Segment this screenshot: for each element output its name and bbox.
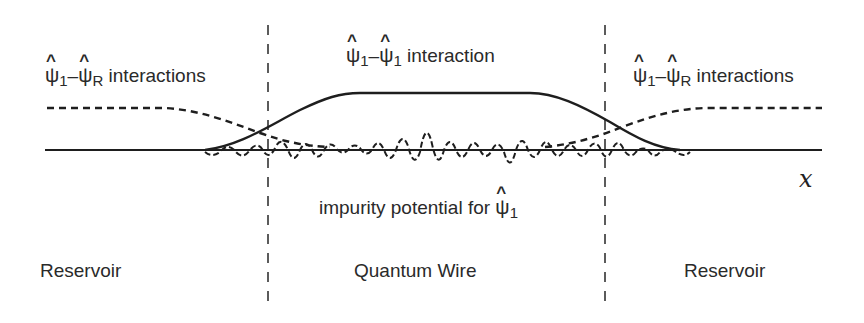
psi-hat-symbol: ^ψ bbox=[633, 64, 647, 87]
impurity-potential-curve bbox=[205, 133, 690, 163]
psi-hat-symbol: ^ψ bbox=[78, 64, 92, 87]
impurity-label: impurity potential for ^ψ1 bbox=[319, 196, 518, 221]
region-label-right-reservoir: Reservoir bbox=[684, 260, 765, 282]
psi-hat-symbol: ^ψ bbox=[346, 44, 360, 67]
x-axis-label: x bbox=[799, 165, 813, 193]
reservoir-interaction-right bbox=[545, 108, 822, 147]
region-label-left-reservoir: Reservoir bbox=[40, 260, 121, 282]
region-label-quantum-wire: Quantum Wire bbox=[354, 260, 476, 282]
psi-hat-symbol: ^ψ bbox=[495, 196, 509, 219]
wire-interaction-curve bbox=[205, 93, 680, 150]
center-interaction-label: ^ψ1–^ψ1 interaction bbox=[346, 44, 495, 69]
psi-hat-symbol: ^ψ bbox=[45, 64, 59, 87]
psi-hat-symbol: ^ψ bbox=[379, 44, 393, 67]
right-interaction-label: ^ψ1–^ψR interactions bbox=[633, 64, 794, 89]
left-interaction-label: ^ψ1–^ψR interactions bbox=[45, 64, 206, 89]
reservoir-interaction-left bbox=[47, 108, 330, 147]
psi-hat-symbol: ^ψ bbox=[666, 64, 680, 87]
